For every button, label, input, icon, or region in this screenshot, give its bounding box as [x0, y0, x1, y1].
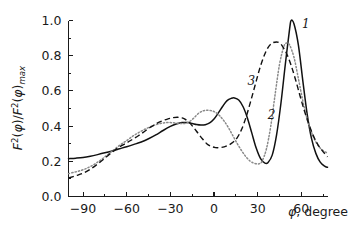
- x-tick-label: −90: [70, 201, 96, 216]
- y-tick-label-group: 0.00.20.40.60.81.0: [42, 13, 62, 204]
- y-tick-label: 1.0: [42, 13, 62, 28]
- y-tick-label: 0.0: [42, 189, 62, 204]
- curve-label-1: 1: [302, 17, 310, 31]
- curve-1: [69, 20, 328, 167]
- x-axis-caption: φ, degree: [288, 204, 348, 219]
- curve-group: [69, 20, 328, 178]
- x-tick-label: 0: [210, 201, 218, 216]
- x-tick-label-group: −90−60−3003060: [70, 201, 309, 216]
- curve-3: [69, 42, 328, 178]
- curve-2: [69, 43, 328, 174]
- axis-group: [69, 21, 328, 197]
- y-tick-label: 0.6: [42, 83, 62, 98]
- curve-label-2: 2: [267, 108, 276, 122]
- x-tick-label: −30: [157, 201, 183, 216]
- y-tick-label: 0.4: [42, 119, 62, 134]
- y-tick-label: 0.2: [42, 154, 62, 169]
- x-tick-label: −60: [114, 201, 140, 216]
- x-tick-label: 30: [250, 201, 266, 216]
- chart-plot-svg: 0.00.20.40.60.81.0 −90−60−3003060 123 φ,…: [0, 0, 358, 231]
- chart-figure: 0.00.20.40.60.81.0 −90−60−3003060 123 φ,…: [0, 0, 358, 231]
- curve-label-3: 3: [247, 74, 255, 88]
- y-axis-caption: F2(φ)/F2(φ)max: [10, 65, 27, 150]
- y-tick-label: 0.8: [42, 48, 62, 63]
